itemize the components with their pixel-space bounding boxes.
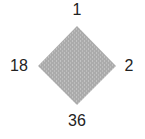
vertex-label-bottom: 36 [66,113,88,129]
vertex-label-top: 1 [72,2,82,18]
vertex-label-left: 18 [9,58,29,74]
vertex-label-right: 2 [124,58,134,74]
diamond-shape [38,26,116,105]
